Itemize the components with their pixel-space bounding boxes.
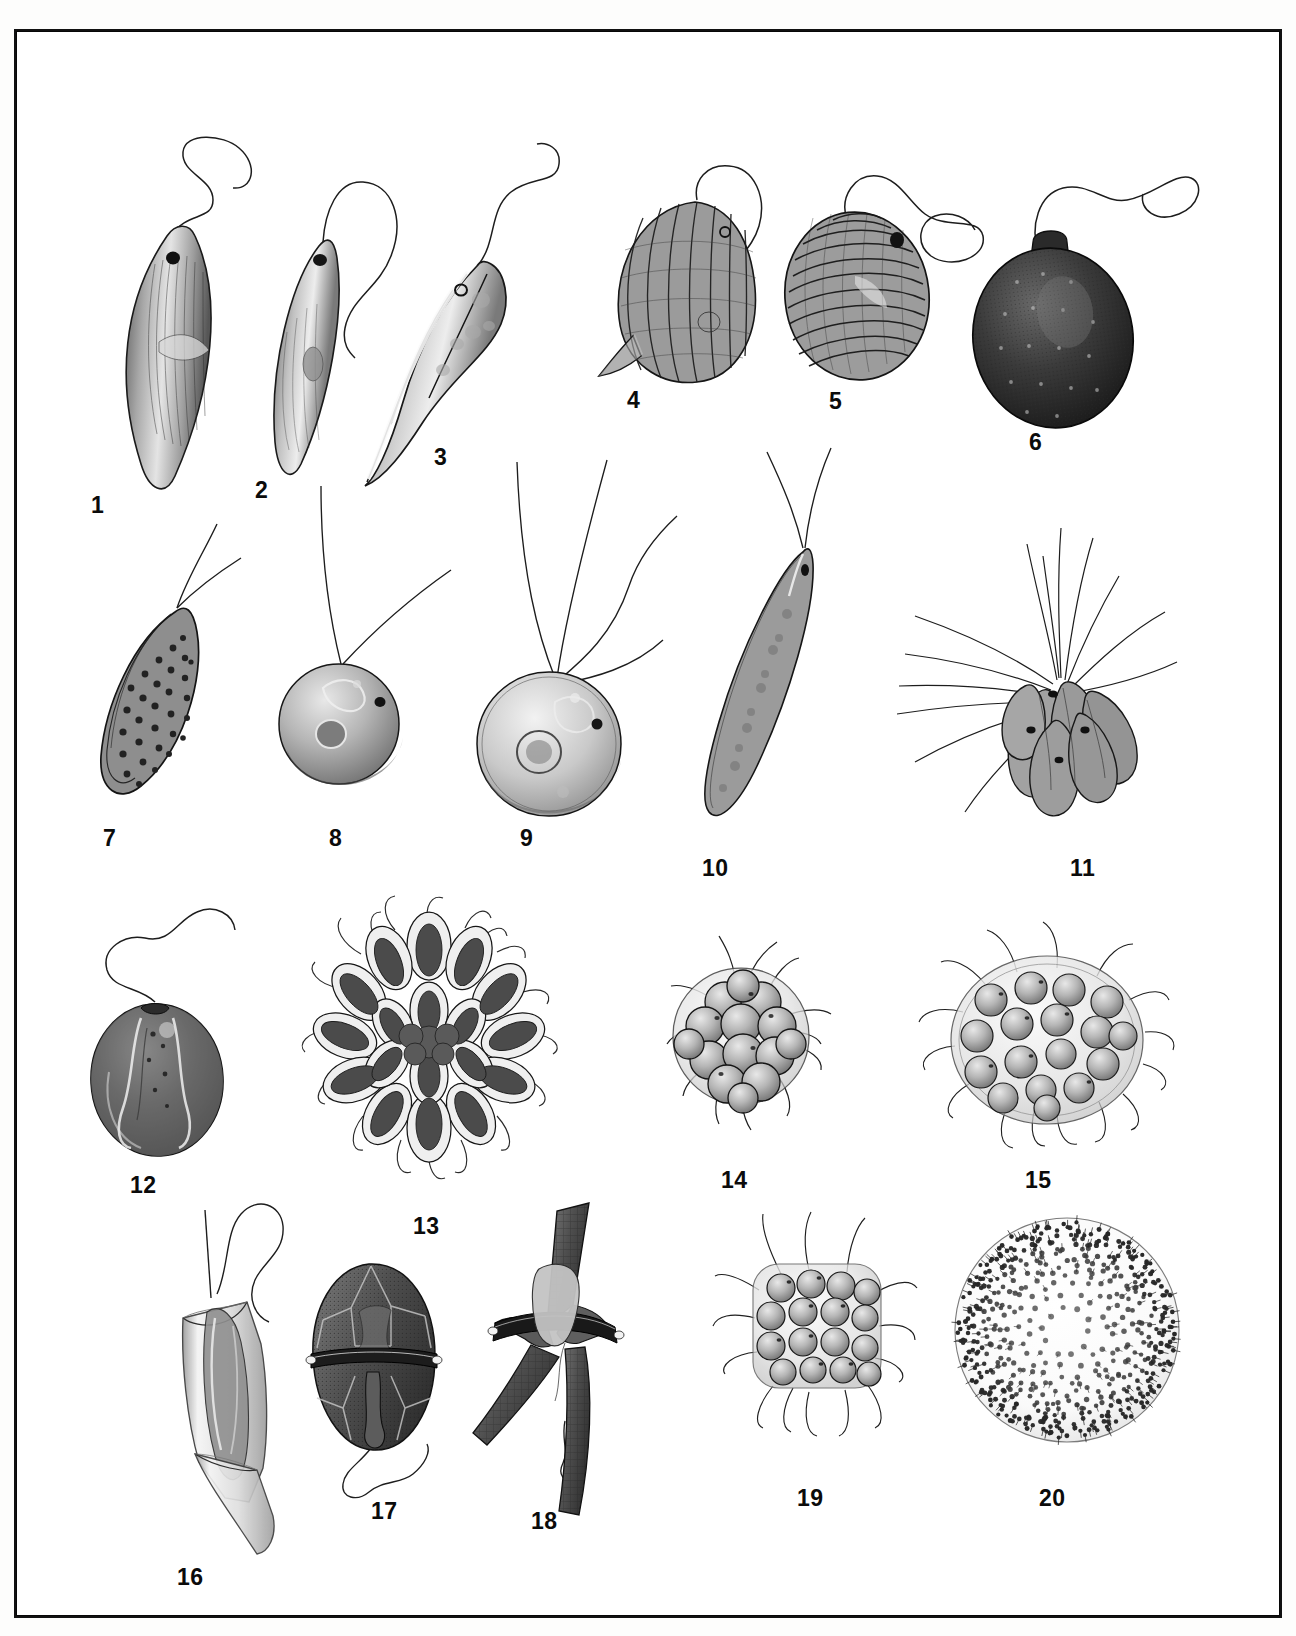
specimen-13-rosette-colony — [283, 884, 573, 1204]
plate-frame-border: 1 2 3 4 5 6 7 8 9 10 11 12 13 14 15 16 1… — [14, 29, 1282, 1618]
figure-label-9: 9 — [520, 827, 533, 850]
contractile-vacuole-9 — [570, 693, 580, 703]
figure-label-5: 5 — [829, 390, 842, 413]
specimen-15-eudorina-colony — [907, 912, 1177, 1162]
flagellum-12 — [106, 909, 235, 1002]
cell-body-10 — [705, 549, 813, 816]
figure-label-10: 10 — [702, 857, 729, 880]
colony-cells-13 — [307, 912, 552, 1162]
flagellum-3 — [479, 144, 559, 264]
figure-label-20: 20 — [1039, 1487, 1066, 1510]
colony-cells-11 — [1002, 682, 1137, 816]
figure-label-6: 6 — [1029, 431, 1042, 454]
figure-label-19: 19 — [797, 1487, 824, 1510]
figure-label-13: 13 — [413, 1215, 440, 1238]
figure-label-7: 7 — [103, 827, 116, 850]
figure-label-3: 3 — [434, 446, 447, 469]
figure-label-15: 15 — [1025, 1169, 1052, 1192]
specimen-14-pandorina-colony — [625, 902, 845, 1152]
colony-sphere-20 — [955, 1218, 1179, 1442]
figure-label-4: 4 — [627, 389, 640, 412]
flagella-8 — [321, 486, 451, 664]
specimen-6-trachelomonas-dark — [947, 142, 1217, 442]
specimen-7-warty-biflagellate — [71, 502, 261, 812]
specimen-11-colony-pointed-cells — [853, 472, 1183, 832]
specimen-20-volvox-colony — [945, 1200, 1195, 1465]
figure-label-2: 2 — [255, 479, 268, 502]
figure-label-1: 1 — [91, 494, 104, 517]
eyespot-2 — [313, 254, 327, 266]
contractile-vacuole-8 — [353, 680, 361, 688]
specimen-18-ceratium — [469, 1197, 659, 1527]
nucleus-2 — [303, 347, 323, 381]
specimen-8-chlamydomonad — [245, 462, 465, 812]
figure-label-12: 12 — [130, 1174, 157, 1197]
figure-label-11: 11 — [1070, 857, 1095, 880]
illustration-plate: 1 2 3 4 5 6 7 8 9 10 11 12 13 14 15 16 1… — [0, 0, 1296, 1636]
flagella-7 — [177, 524, 241, 608]
eyespot-5 — [890, 232, 904, 248]
specimen-10-chlorogonium-spindle — [653, 436, 853, 836]
eyespot-10 — [801, 564, 809, 576]
flagella-10 — [767, 448, 831, 548]
eyespot-8 — [375, 697, 386, 707]
figure-label-16: 16 — [177, 1566, 204, 1589]
figure-label-14: 14 — [721, 1169, 748, 1192]
specimen-12-cryptomonad-ovoid — [69, 894, 269, 1174]
specimen-17-peridinium — [293, 1248, 463, 1498]
figure-label-18: 18 — [531, 1510, 558, 1533]
figure-label-17: 17 — [371, 1500, 398, 1523]
eyespot-9 — [592, 719, 603, 730]
eyespot-1 — [166, 252, 180, 265]
pyrenoid-8 — [316, 720, 346, 748]
specimen-3-euglenoid-ribbed — [361, 140, 591, 490]
specimen-19-gonium-colony — [697, 1202, 937, 1472]
figure-label-8: 8 — [329, 827, 342, 850]
longitudinal-flagellum-17 — [343, 1444, 428, 1498]
